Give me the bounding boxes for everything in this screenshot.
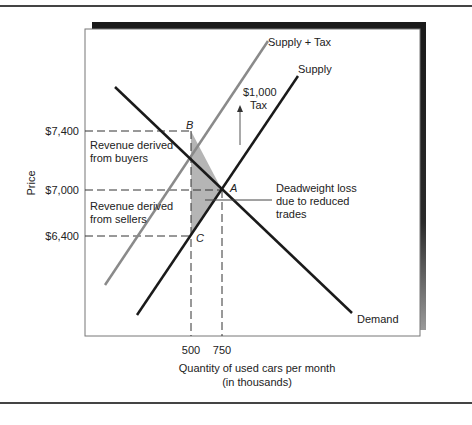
supply-label: Supply — [298, 63, 332, 75]
tax-word-label: Tax — [250, 99, 268, 111]
revenue-buyers-line1: Revenue derived — [90, 139, 173, 151]
deadweight-line2: due to reduced — [276, 195, 349, 207]
deadweight-line3: trades — [276, 208, 307, 220]
deadweight-line1: Deadweight loss — [276, 182, 357, 194]
y-tick-7400: $7,400 — [45, 125, 79, 137]
revenue-sellers-line2: from sellers — [90, 213, 147, 225]
frame-shadow-right — [420, 22, 426, 330]
supply-demand-chart: Supply + Tax Supply Demand $1,000 Tax B … — [0, 0, 472, 425]
x-axis-label-line2: (in thousands) — [222, 376, 292, 388]
demand-label: Demand — [357, 313, 399, 325]
x-tick-750: 750 — [213, 344, 231, 356]
revenue-sellers-line1: Revenue derived — [90, 200, 173, 212]
x-axis-label-line1: Quantity of used cars per month — [179, 362, 336, 374]
revenue-buyers-line2: from buyers — [90, 152, 149, 164]
y-axis-label: Price — [25, 170, 37, 195]
frame-shadow-top — [92, 22, 426, 29]
tax-amount-label: $1,000 — [243, 86, 277, 98]
point-b-label: B — [186, 119, 193, 131]
y-tick-7000: $7,000 — [45, 184, 79, 196]
supply-tax-label: Supply + Tax — [268, 36, 332, 48]
point-c-label: C — [196, 232, 204, 244]
y-tick-6400: $6,400 — [45, 230, 79, 242]
point-a-label: A — [229, 182, 237, 194]
plot-frame — [85, 29, 420, 336]
x-tick-500: 500 — [182, 344, 200, 356]
